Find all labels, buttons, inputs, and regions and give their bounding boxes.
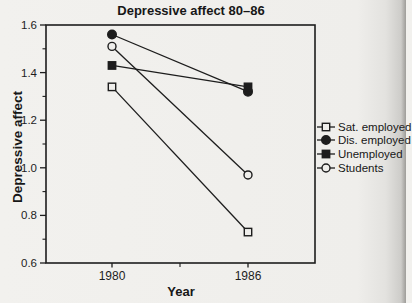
y-tick-label: 1.4 [21,67,38,79]
filled-circle-marker [322,136,331,145]
series-line [112,46,248,175]
open-circle-marker [108,42,116,50]
x-tick-label: 1986 [235,269,262,283]
open-circle-marker [244,171,252,179]
legend-label: Unemployed [338,148,403,160]
open-circle-marker [322,164,330,172]
legend-label: Sat. employed [338,121,412,133]
legend-item-sat-employed: Sat. employed [317,120,412,134]
y-tick-label: 0.8 [21,209,37,221]
filled-circle-icon [317,134,335,146]
open-square-marker [322,123,329,130]
series-line [112,65,248,86]
open-square-marker [108,83,115,90]
y-tick-label: 1.2 [21,114,37,126]
legend-item-students: Students [317,161,412,175]
series-line [112,87,248,232]
x-axis-label: Year [46,284,316,299]
y-tick-label: 0.6 [21,257,37,269]
x-tick-label: 1980 [99,269,126,283]
open-circle-icon [317,162,335,174]
y-tick-label: 1.0 [21,162,37,174]
y-tick-label: 1.6 [21,19,37,31]
filled-square-marker [322,150,329,157]
filled-circle-marker [108,30,117,39]
filled-square-marker [244,83,251,90]
open-square-icon [317,121,335,133]
filled-square-marker [108,62,115,69]
legend: Sat. employedDis. employedUnemployedStud… [317,120,412,174]
filled-square-icon [317,148,335,160]
open-square-marker [244,228,251,235]
legend-label: Students [338,162,383,174]
plot-frame [46,25,315,263]
legend-item-unemployed: Unemployed [317,147,412,161]
legend-item-dis-employed: Dis. employed [317,134,412,148]
legend-label: Dis. employed [338,134,411,146]
